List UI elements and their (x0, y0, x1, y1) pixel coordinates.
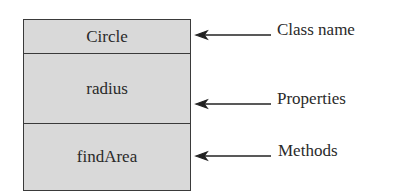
label-methods: Methods (278, 141, 338, 161)
arrow-class-name-icon (196, 31, 271, 39)
arrow-methods-icon (196, 152, 271, 160)
arrow-properties-icon (196, 100, 271, 108)
label-class-name: Class name (277, 20, 355, 40)
label-properties: Properties (277, 89, 346, 109)
